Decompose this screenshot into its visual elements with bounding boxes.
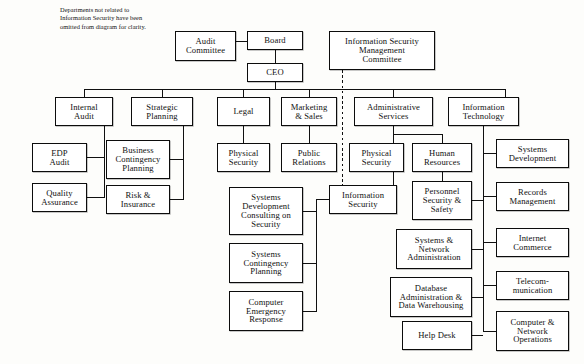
node-audit-committee[interactable]: Audit Committee — [175, 31, 236, 61]
node-internal-audit[interactable]: Internal Audit — [55, 97, 113, 126]
wire-infosec-spine — [303, 199, 316, 311]
node-records-management[interactable]: Records Management — [496, 182, 569, 211]
node-database-administration-data-warehousing[interactable]: Database Administration & Data Warehousi… — [390, 277, 472, 317]
node-computer-network-operations[interactable]: Computer & Network Operations — [496, 311, 569, 351]
node-personnel-security-safety[interactable]: Personnel Security & Safety — [412, 181, 472, 220]
node-physical-security-admin[interactable]: Physical Security — [349, 143, 404, 172]
wire-it-spine — [483, 126, 496, 331]
node-board[interactable]: Board — [247, 31, 303, 50]
node-systems-development[interactable]: Systems Development — [496, 139, 569, 168]
node-computer-emergency-response[interactable]: Computer Emergency Response — [229, 291, 303, 331]
wire-internal-audit-spine — [87, 126, 104, 197]
node-business-contingency-planning[interactable]: Business Contingency Planning — [106, 140, 170, 179]
node-public-relations[interactable]: Public Relations — [281, 143, 337, 172]
node-information-security[interactable]: Information Security — [329, 185, 397, 214]
org-chart: Departments not related to Information S… — [0, 0, 584, 364]
node-help-desk[interactable]: Help Desk — [402, 321, 472, 350]
node-systems-development-consulting-on-security[interactable]: Systems Development Consulting on Securi… — [229, 187, 303, 235]
node-human-resources[interactable]: Human Resources — [412, 143, 472, 172]
node-internet-commerce[interactable]: Internet Commerce — [496, 228, 569, 257]
node-ceo[interactable]: CEO — [247, 63, 303, 82]
node-systems-contingency-planning[interactable]: Systems Contingency Planning — [229, 243, 303, 283]
node-risk-insurance[interactable]: Risk & Insurance — [106, 185, 170, 214]
wire-strategic-spine — [170, 126, 183, 199]
node-physical-security-legal[interactable]: Physical Security — [217, 143, 270, 172]
node-information-technology[interactable]: Information Technology — [448, 97, 519, 126]
node-administrative-services[interactable]: Administrative Services — [354, 97, 433, 126]
node-marketing-sales[interactable]: Marketing & Sales — [281, 97, 337, 126]
node-strategic-planning[interactable]: Strategic Planning — [131, 97, 193, 126]
node-information-security-management-committee[interactable]: Information Security Management Committe… — [329, 31, 435, 70]
node-quality-assurance[interactable]: Quality Assurance — [32, 183, 87, 212]
wire-admin-hr-bus — [393, 134, 442, 143]
omission-note: Departments not related to Information S… — [60, 6, 220, 31]
node-edp-audit[interactable]: EDP Audit — [32, 143, 87, 172]
node-telecommunication[interactable]: Telecom- munication — [496, 271, 569, 300]
node-legal[interactable]: Legal — [217, 97, 270, 126]
node-systems-network-administration[interactable]: Systems & Network Administration — [396, 229, 472, 269]
